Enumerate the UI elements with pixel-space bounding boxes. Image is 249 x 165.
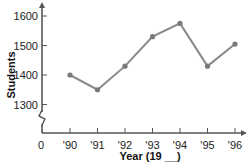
x-tick-label: '96 — [228, 139, 242, 151]
y-tick-label: 1300 — [14, 99, 38, 111]
y-tick-label: 1500 — [14, 40, 38, 52]
x-origin-label: 0 — [38, 139, 44, 151]
data-point — [177, 21, 182, 26]
data-point — [95, 87, 100, 92]
x-ticks: '90'91'92'93'94'95'96 — [63, 128, 242, 151]
x-axis-title: Year (19 __) — [119, 150, 180, 162]
x-tick-label: '95 — [200, 139, 214, 151]
x-axis-arrow-icon — [241, 130, 247, 136]
y-tick-label: 1600 — [14, 10, 38, 22]
data-point — [122, 64, 127, 69]
series-students — [67, 21, 237, 93]
y-axis-title: Students — [5, 51, 17, 98]
y-axis-arrow-icon — [39, 2, 45, 8]
data-point — [150, 34, 155, 39]
line-chart: 1300140015001600 '90'91'92'93'94'95'96 0… — [0, 0, 249, 165]
data-line — [70, 23, 235, 89]
y-tick-label: 1400 — [14, 69, 38, 81]
data-point — [67, 72, 72, 77]
x-tick-label: '90 — [63, 139, 77, 151]
data-point — [232, 41, 237, 46]
data-point — [205, 64, 210, 69]
x-tick-label: '91 — [90, 139, 104, 151]
